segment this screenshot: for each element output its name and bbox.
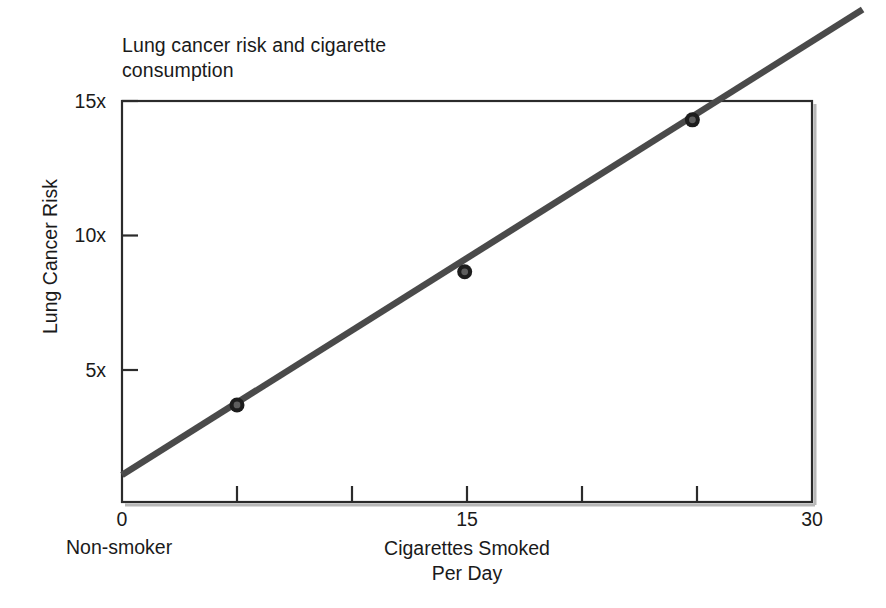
plot-area <box>0 0 886 608</box>
tick-marks-group <box>122 101 697 502</box>
data-point-core-1 <box>234 402 241 409</box>
axes-group <box>122 101 815 505</box>
lung-cancer-risk-chart: Lung cancer risk and cigarette consumpti… <box>0 0 886 608</box>
data-point-core-3 <box>689 116 696 123</box>
data-point-core-2 <box>461 268 468 275</box>
